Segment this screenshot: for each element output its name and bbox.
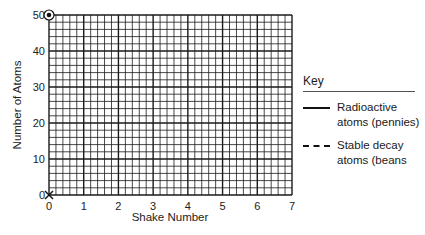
svg-text:50: 50	[33, 9, 45, 21]
svg-text:10: 10	[33, 153, 45, 165]
svg-text:5: 5	[220, 200, 226, 212]
legend-item-stable: Stable decay atoms (beans	[303, 138, 423, 168]
svg-text:2: 2	[115, 200, 121, 212]
legend-item-radioactive: Radioactive atoms (pennies)	[303, 100, 423, 130]
dashed-line-icon	[303, 145, 330, 147]
y-axis-ticks: 01020304050	[33, 9, 45, 201]
svg-text:1: 1	[81, 200, 87, 212]
svg-text:7: 7	[289, 200, 295, 212]
chart-grid	[49, 15, 292, 195]
legend-label: Stable decay atoms (beans	[337, 138, 422, 168]
svg-text:40: 40	[33, 45, 45, 57]
x-axis-label: Shake Number	[132, 211, 209, 223]
legend-key: Key Radioactive atoms (pennies) Stable d…	[303, 74, 423, 168]
legend-title: Key	[303, 74, 415, 92]
svg-text:30: 30	[33, 81, 45, 93]
svg-text:0: 0	[39, 189, 45, 201]
solid-line-icon	[303, 107, 330, 109]
legend-label: Radioactive atoms (pennies)	[337, 100, 422, 130]
svg-text:20: 20	[33, 117, 45, 129]
svg-text:0: 0	[46, 200, 52, 212]
y-axis-label: Number of Atoms	[11, 60, 23, 149]
svg-text:6: 6	[254, 200, 260, 212]
